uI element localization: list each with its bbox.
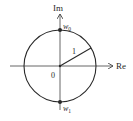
complex-plane-diagram: Im Re 0 1 w0 w1 [0,0,133,121]
imaginary-axis-label: Im [53,3,63,13]
point-w1 [58,100,62,104]
origin-label: 0 [51,71,55,80]
origin-dot [59,65,61,67]
radius-label: 1 [72,47,76,56]
real-axis-label: Re [116,61,126,71]
w0-label: w0 [63,22,71,32]
w1-label: w1 [63,104,71,114]
point-w0 [58,28,62,32]
